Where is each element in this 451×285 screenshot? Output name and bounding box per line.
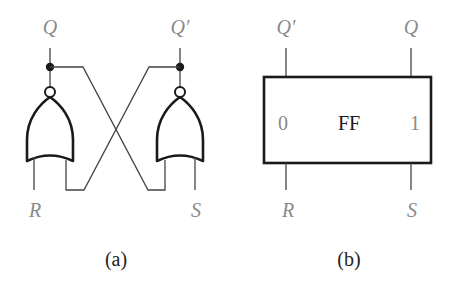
- input-s-label: S: [191, 199, 201, 221]
- caption-a: (a): [105, 248, 127, 271]
- nor-latch-circuit: Q Q′ R S (a): [27, 16, 203, 271]
- ff-block-label: FF: [338, 112, 360, 134]
- output-q-label: Q: [43, 16, 58, 38]
- input-s-label: S: [407, 199, 417, 221]
- nor-gate-body-icon: [27, 97, 73, 161]
- flip-flop-block-symbol: Q′ Q 0 FF 1 R S (b): [264, 16, 431, 271]
- sr-flip-flop-diagram: Q Q′ R S (a) Q′ Q: [0, 0, 451, 285]
- nor-gate-body-icon: [157, 97, 203, 161]
- inversion-bubble-icon: [45, 87, 55, 97]
- output-q-prime-label: Q′: [277, 16, 296, 38]
- caption-b: (b): [337, 248, 360, 271]
- input-r-label: R: [281, 199, 294, 221]
- pin-one-label: 1: [410, 112, 420, 134]
- pin-zero-label: 0: [278, 112, 288, 134]
- output-q-label: Q: [404, 16, 419, 38]
- nor-gate-right: [157, 87, 203, 190]
- input-r-label: R: [28, 199, 41, 221]
- output-q-prime-label: Q′: [171, 16, 190, 38]
- inversion-bubble-icon: [175, 87, 185, 97]
